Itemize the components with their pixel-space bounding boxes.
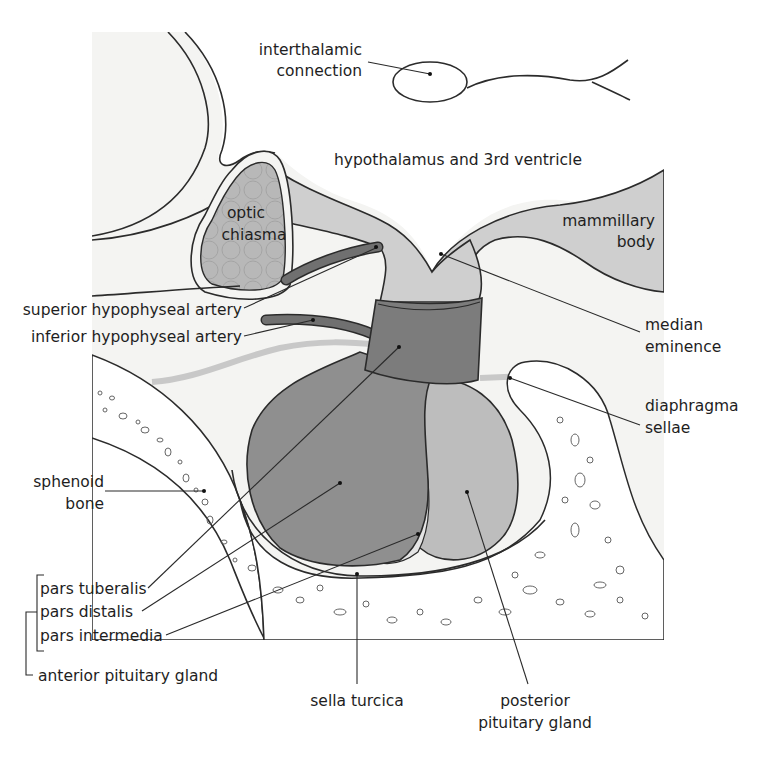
label-pars-tuberalis: pars tuberalis [40,580,147,598]
label-inferior-artery: inferior hypophyseal artery [31,328,242,346]
label-diaphragma-line2: sellae [645,419,690,437]
label-pars-intermedia: pars intermedia [40,627,163,645]
label-optic-chiasma-line1: optic [227,204,265,222]
label-mammillary-line1: mammillary [562,212,655,230]
label-sphenoid-line2: bone [65,495,104,513]
label-posterior-line2: pituitary gland [478,714,592,732]
label-mammillary-line2: body [617,233,655,251]
label-pars-distalis: pars distalis [40,603,133,621]
label-sella-turcica: sella turcica [310,692,403,710]
label-sphenoid-line1: sphenoid [33,473,104,491]
label-hypothalamus: hypothalamus and 3rd ventricle [334,151,582,169]
label-diaphragma-line1: diaphragma [645,397,739,415]
pituitary-diagram: interthalamic connection hypothalamus an… [0,0,770,761]
label-interthalamic-line2: connection [277,62,362,80]
label-interthalamic-line1: interthalamic [259,41,362,59]
label-posterior-line1: posterior [500,692,570,710]
label-anterior-pituitary: anterior pituitary gland [38,667,218,685]
pars-tuberalis-band [365,298,482,384]
label-median-line1: median [645,316,703,334]
label-optic-chiasma-line2: chiasma [222,226,287,244]
label-superior-artery: superior hypophyseal artery [23,301,242,319]
label-median-line2: eminence [645,338,721,356]
